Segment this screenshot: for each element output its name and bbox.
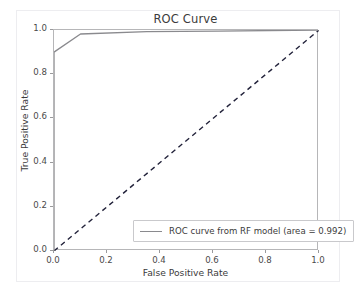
y-tick-mark xyxy=(50,117,53,118)
x-tick-mark xyxy=(318,250,319,253)
x-tick-mark xyxy=(53,250,54,253)
x-axis-label: False Positive Rate xyxy=(53,267,318,278)
roc-curve-figure: ROC Curve 0.00.20.40.60.81.0 0.00.20.40.… xyxy=(0,0,357,293)
x-tick-label: 0.0 xyxy=(33,255,73,265)
y-tick-mark xyxy=(50,250,53,251)
x-tick-mark xyxy=(106,250,107,253)
page-title: ROC Curve xyxy=(53,12,318,26)
y-tick-mark xyxy=(50,73,53,74)
y-tick-label: 0.2 xyxy=(11,200,47,210)
x-tick-label: 0.4 xyxy=(139,255,179,265)
x-tick-mark xyxy=(159,250,160,253)
plot-canvas xyxy=(54,30,319,251)
x-tick-label: 0.6 xyxy=(192,255,232,265)
y-tick-label: 1.0 xyxy=(11,23,47,33)
y-tick-mark xyxy=(50,29,53,30)
legend: ROC curve from RF model (area = 0.992) xyxy=(133,220,354,242)
y-tick-label: 0.0 xyxy=(11,244,47,254)
legend-swatch-roc-curve xyxy=(140,231,162,232)
x-tick-mark xyxy=(212,250,213,253)
y-tick-mark xyxy=(50,206,53,207)
x-tick-mark xyxy=(265,250,266,253)
x-tick-label: 0.8 xyxy=(245,255,285,265)
y-axis-label: True Positive Rate xyxy=(19,66,30,196)
y-tick-mark xyxy=(50,162,53,163)
x-tick-label: 1.0 xyxy=(298,255,338,265)
x-tick-label: 0.2 xyxy=(86,255,126,265)
plot-area xyxy=(53,29,318,250)
legend-label-roc-curve: ROC curve from RF model (area = 0.992) xyxy=(169,226,346,236)
chance-reference-line xyxy=(54,30,319,251)
